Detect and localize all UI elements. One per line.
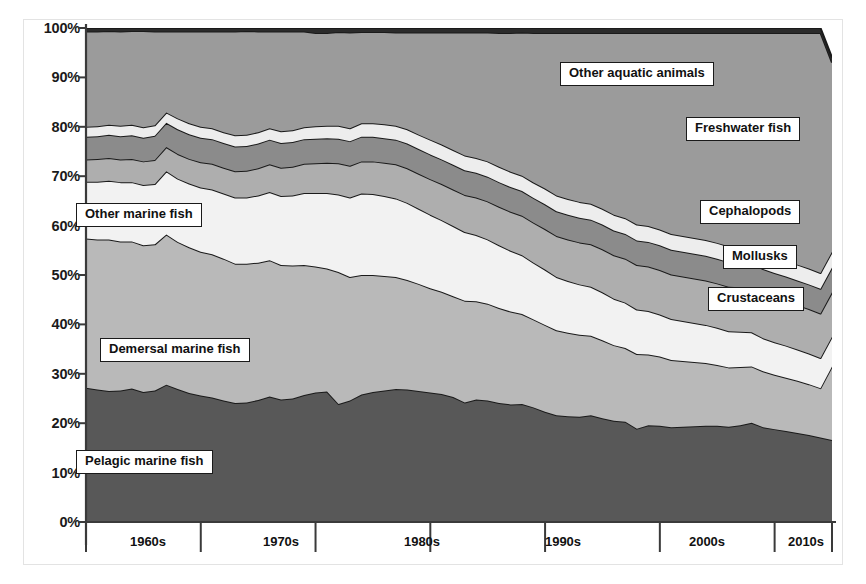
series-label-cephalopods: Cephalopods bbox=[700, 200, 800, 224]
series-label-mollusks: Mollusks bbox=[723, 245, 797, 269]
series-label-demersal-marine-fish: Demersal marine fish bbox=[100, 338, 250, 362]
x-tick-2010s: 2010s bbox=[788, 534, 824, 549]
y-axis-ticks bbox=[78, 28, 86, 522]
x-tick-1960s: 1960s bbox=[130, 534, 166, 549]
series-label-freshwater-fish: Freshwater fish bbox=[686, 117, 800, 141]
series-label-other-aquatic-animals: Other aquatic animals bbox=[560, 62, 714, 86]
series-label-pelagic-marine-fish: Pelagic marine fish bbox=[76, 450, 213, 474]
chart-figure: 0% 10% 20% 30% 40% 50% 60% 70% 80% 90% 1… bbox=[0, 0, 866, 584]
series-label-crustaceans: Crustaceans bbox=[708, 287, 804, 311]
x-tick-1970s: 1970s bbox=[263, 534, 299, 549]
x-tick-1990s: 1990s bbox=[545, 534, 581, 549]
stacked-area-series bbox=[86, 28, 832, 522]
x-tick-1980s: 1980s bbox=[404, 534, 440, 549]
series-label-other-marine-fish: Other marine fish bbox=[76, 203, 202, 227]
x-tick-2000s: 2000s bbox=[689, 534, 725, 549]
